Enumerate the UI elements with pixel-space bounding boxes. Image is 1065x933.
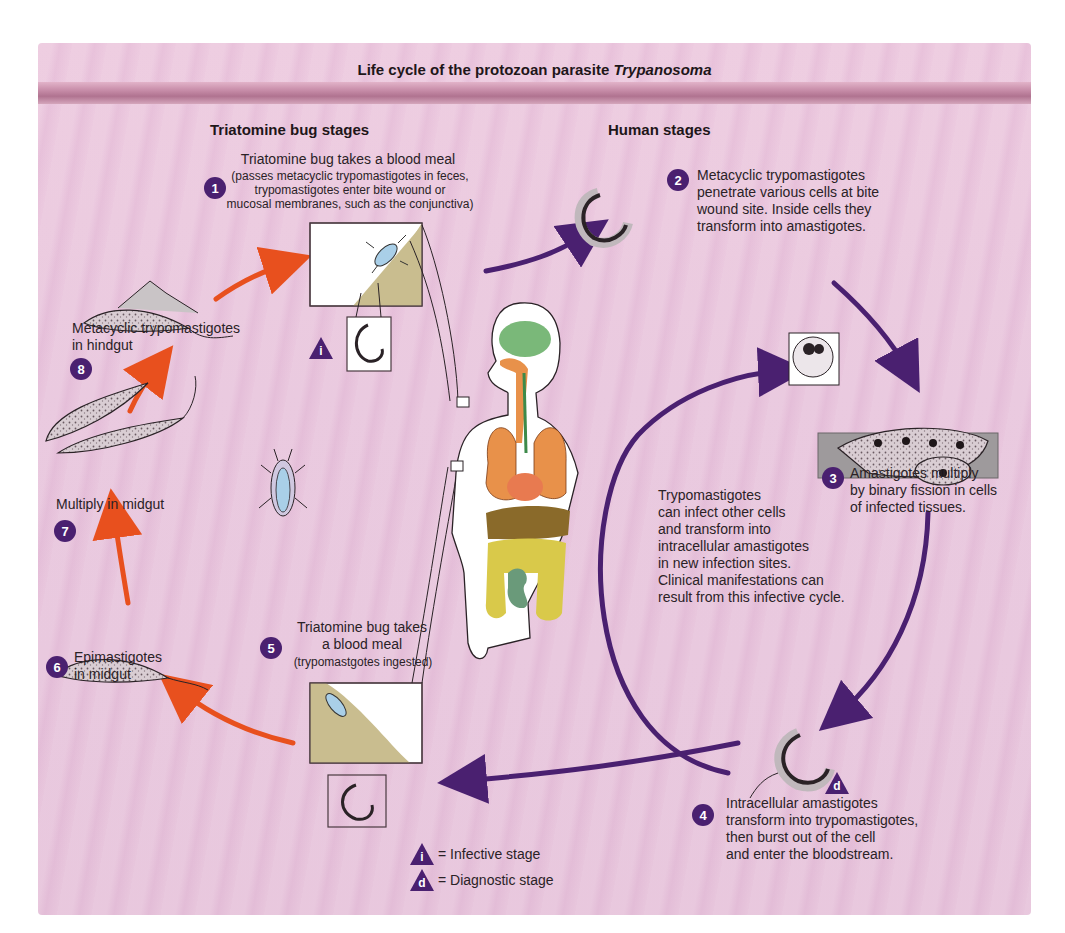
stage-badge-7: 7 xyxy=(54,520,76,542)
legend-diagnostic: d = Diagnostic stage xyxy=(410,869,554,891)
stage-6-text: Epimastigotes in midgut xyxy=(74,649,194,683)
stage-badge-6: 6 xyxy=(46,656,68,678)
stage-5-detail: (trypomastgotes ingested) xyxy=(278,655,448,669)
arrow-6-to-7 xyxy=(114,513,128,603)
stage-4-text: Intracellular amastigotes transform into… xyxy=(726,795,956,863)
trypomastigote-stage-4 xyxy=(750,733,830,798)
infective-stage-marker: i xyxy=(309,337,333,359)
diagram-panel: Life cycle of the protozoan parasite Try… xyxy=(38,43,1031,915)
bite-site-marker-lower xyxy=(451,461,463,471)
stage-badge-2: 2 xyxy=(667,169,689,191)
legend-infective-label: = Infective stage xyxy=(438,846,540,862)
diagnostic-stage-marker: d xyxy=(825,772,849,794)
arrow-5-to-6 xyxy=(178,689,293,743)
section-heading-bug-stages: Triatomine bug stages xyxy=(210,121,369,138)
bite-box-stage-5 xyxy=(310,683,422,827)
stage-5-text: Triatomine bug takes a blood meal xyxy=(282,619,442,653)
arrow-8-to-1 xyxy=(216,263,288,299)
arrow-2-to-3 xyxy=(834,283,908,371)
stage-1-heading: Triatomine bug takes a blood meal xyxy=(218,151,478,168)
arrow-1-to-2 xyxy=(486,233,588,271)
stage-7-text: Multiply in midgut xyxy=(56,496,216,513)
stage-8-text: Metacyclic trypomastigotes in hindgut xyxy=(72,320,272,354)
legend-infective: i = Infective stage xyxy=(410,843,540,865)
legend-diagnostic-label: = Diagnostic stage xyxy=(438,872,554,888)
stage-3-text: Amastigotes multiply by binary fission i… xyxy=(850,465,1031,516)
human-body-illustration xyxy=(452,303,578,659)
triatomine-bug-icon xyxy=(259,449,307,516)
amastigote-cell-stage-3 xyxy=(789,333,998,485)
epimastigotes-stage-7 xyxy=(46,376,196,453)
section-heading-human-stages: Human stages xyxy=(608,121,711,138)
trypomastigote-stage-2 xyxy=(580,193,628,243)
diagnostic-legend-icon: d xyxy=(410,869,434,891)
stage-badge-8: 8 xyxy=(70,358,92,380)
infective-legend-icon: i xyxy=(410,843,434,865)
infective-cycle-note: Trypomastigotes can infect other cells a… xyxy=(658,487,868,606)
stage-badge-3: 3 xyxy=(822,467,844,489)
stage-badge-4: 4 xyxy=(692,804,714,826)
stage-1-detail: (passes metacyclic trypomastigotes in fe… xyxy=(220,169,480,211)
bite-site-marker-upper xyxy=(457,397,469,407)
stage-2-text: Metacyclic trypomastigotes penetrate var… xyxy=(697,167,927,235)
